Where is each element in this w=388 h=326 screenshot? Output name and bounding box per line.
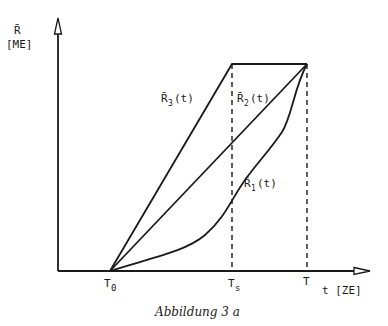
tick-t0: T 0 <box>104 277 116 293</box>
label-r1-sub: 1 <box>251 184 256 193</box>
label-r1-arg: (t) <box>257 177 277 190</box>
tick-t: T <box>303 275 310 288</box>
x-axis-arrow-icon <box>354 268 370 275</box>
curve-r2 <box>110 64 307 271</box>
label-r3: R̄ 3 (t) <box>161 92 194 108</box>
y-axis-unit: [ME] <box>6 38 33 51</box>
tick-ts-main: T <box>228 277 235 290</box>
y-axis-arrow-icon <box>55 18 62 34</box>
x-axis-label: t [ZE] <box>322 284 362 297</box>
y-axis-symbol: R̄ <box>14 24 21 37</box>
label-r1: R̄ 1 (t) <box>244 177 277 193</box>
label-r2-main: R̄ <box>237 92 244 105</box>
tick-ts-sub: s <box>235 283 240 293</box>
figure-caption: Abbildung 3 a <box>154 305 240 319</box>
tick-ts: T s <box>228 277 240 293</box>
tick-t0-sub: 0 <box>111 283 116 293</box>
diagram: R̄ [ME] R̄ 3 (t) R̄ 2 (t) R̄ 1 (t) T 0 T… <box>0 0 388 326</box>
label-r3-arg: (t) <box>174 92 194 105</box>
tick-t0-main: T <box>104 277 111 290</box>
label-r2-sub: 2 <box>244 99 249 108</box>
label-r3-main: R̄ <box>161 92 168 105</box>
label-r2: R̄ 2 (t) <box>237 92 270 108</box>
label-r1-main: R̄ <box>244 177 251 190</box>
label-r3-sub: 3 <box>168 99 173 108</box>
label-r2-arg: (t) <box>250 92 270 105</box>
